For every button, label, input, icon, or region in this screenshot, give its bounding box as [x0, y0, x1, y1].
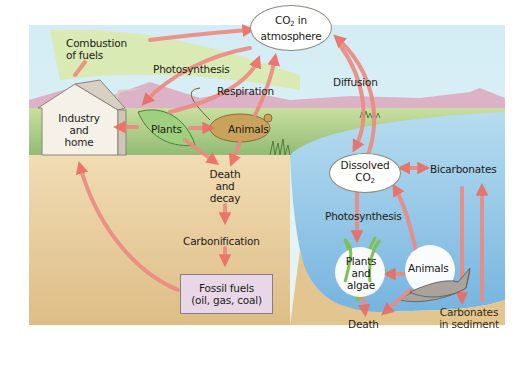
plants-algae-node: Plants and algae	[340, 255, 382, 291]
death-water-node: Death	[348, 318, 379, 330]
photosynthesis-water-label: Photosynthesis	[325, 210, 402, 222]
industry-node: Industry and home	[47, 112, 111, 148]
combustion-label: Combustion of fuels	[66, 37, 127, 61]
dissolved-co2-node: Dissolved CO2	[329, 153, 401, 193]
carbonates-line2: in sediment	[436, 318, 502, 330]
animals-land-node: Animals	[228, 123, 268, 135]
industry-line2: and	[47, 124, 111, 136]
death-decay-line1: Death	[202, 168, 248, 180]
industry-line1: Industry	[47, 112, 111, 124]
industry-line3: home	[47, 136, 111, 148]
plants-node: Plants	[151, 123, 182, 135]
dissolved-co2-label: CO	[355, 171, 370, 183]
co2-in-label: in	[295, 14, 307, 26]
combustion-line2: of fuels	[66, 49, 127, 61]
co2-atmosphere-node: CO2 in atmosphere	[250, 5, 332, 51]
animals-water-node: Animals	[408, 262, 448, 274]
plants-algae-line3: algae	[340, 279, 382, 291]
fossil-fuels-line1: Fossil fuels	[191, 282, 262, 294]
photosynthesis-land-label: Photosynthesis	[153, 63, 230, 75]
carbonates-sediment-node: Carbonates in sediment	[436, 306, 502, 330]
fossil-fuels-line2: (oil, gas, coal)	[191, 294, 262, 306]
carbonification-label: Carbonification	[183, 235, 260, 247]
diffusion-label: Diffusion	[333, 76, 378, 88]
subscript-2: 2	[370, 177, 374, 185]
death-decay-line2: and	[202, 180, 248, 192]
plants-algae-line1: Plants	[340, 255, 382, 267]
carbonates-line1: Carbonates	[436, 306, 502, 318]
plants-algae-line2: and	[340, 267, 382, 279]
bicarbonates-node: Bicarbonates	[430, 163, 496, 175]
death-decay-node: Death and decay	[202, 168, 248, 204]
respiration-label: Respiration	[217, 85, 274, 97]
dissolved-line1: Dissolved	[341, 159, 390, 171]
combustion-line1: Combustion	[66, 37, 127, 49]
atmosphere-label: atmosphere	[260, 30, 321, 42]
co2-label: CO	[275, 14, 290, 26]
death-decay-line3: decay	[202, 192, 248, 204]
fossil-fuels-node: Fossil fuels (oil, gas, coal)	[180, 274, 273, 314]
